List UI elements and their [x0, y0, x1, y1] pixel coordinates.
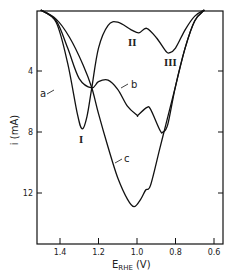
y-tick-label: 12: [23, 189, 33, 198]
curve-label-c-arrow: [115, 159, 122, 163]
curves: [41, 10, 205, 207]
y-tick-label: 4: [28, 67, 33, 76]
peak-label-II: II: [128, 38, 136, 48]
x-tick-label: 0.8: [169, 248, 182, 257]
curve-label-b-arrow: [121, 84, 128, 88]
curve-label-c: c: [124, 153, 130, 164]
x-tick-label: 1.0: [131, 248, 144, 257]
curve-label-b: b: [131, 79, 137, 90]
x-axis-ticks: 1.41.21.00.80.6: [54, 238, 221, 257]
y-axis-title: i (mA): [9, 115, 20, 145]
svg-text:ERHE(V): ERHE(V): [112, 259, 151, 272]
peak-label-III: III: [164, 58, 177, 68]
voltammogram-chart: 1.41.21.00.80.6 4812 a b c I II III ERHE…: [0, 0, 233, 280]
y-tick-label: 8: [28, 128, 33, 137]
x-tick-label: 1.4: [54, 248, 67, 257]
curve-label-a-arrow: [47, 90, 54, 94]
x-axis-title-sub: RHE: [118, 264, 133, 272]
peak-label-I: I: [79, 135, 83, 145]
x-tick-label: 0.6: [208, 248, 221, 257]
curve-label-a: a: [40, 88, 46, 99]
x-axis-title: ERHE(V): [112, 259, 151, 272]
x-axis-title-unit: (V): [136, 259, 151, 270]
x-tick-label: 1.2: [92, 248, 105, 257]
curve-b: [41, 10, 205, 133]
